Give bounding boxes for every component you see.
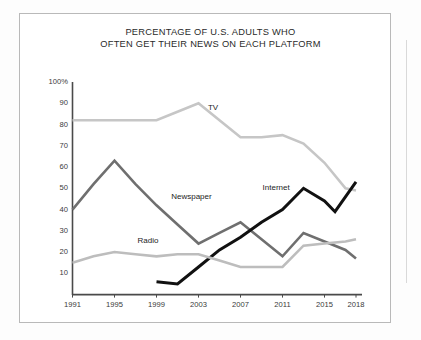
x-tick-1991: 1991 [53, 300, 93, 309]
y-tick-70: 70 [60, 141, 68, 150]
series-label-tv: TV [208, 103, 218, 112]
x-tick-2007: 2007 [221, 300, 261, 309]
y-tick-20: 20 [60, 247, 68, 256]
y-tick-40: 40 [60, 205, 68, 214]
y-tick-30: 30 [60, 226, 68, 235]
x-tick-2003: 2003 [179, 300, 219, 309]
screenshot-page: PERCENTAGE OF U.S. ADULTS WHO OFTEN GET … [0, 0, 421, 340]
y-tick-80: 80 [60, 120, 68, 129]
y-tick-90: 90 [60, 98, 68, 107]
y-tick-50: 50 [60, 183, 68, 192]
series-label-internet: Internet [263, 183, 290, 192]
y-tick-100: 100% [49, 77, 68, 86]
y-tick-10: 10 [60, 268, 68, 277]
y-tick-60: 60 [60, 162, 68, 171]
x-tick-1995: 1995 [95, 300, 135, 309]
chart-series-group [73, 103, 357, 284]
x-tick-2018: 2018 [336, 300, 376, 309]
x-tick-1999: 1999 [137, 300, 177, 309]
series-label-radio: Radio [138, 236, 159, 245]
x-tick-2011: 2011 [263, 300, 303, 309]
series-line-tv [73, 103, 357, 190]
chart-axes [72, 82, 362, 298]
series-label-newspaper: Newspaper [171, 192, 211, 201]
